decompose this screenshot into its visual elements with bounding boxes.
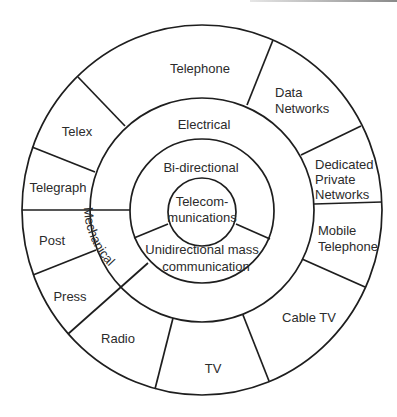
divider-dedicated-mobile	[314, 202, 382, 204]
ring2-bidirectional-label: Bi-directional	[163, 160, 238, 175]
ring2-unidirectional-line1: Unidirectional mass	[145, 242, 259, 257]
outer-telex-label: Telex	[62, 124, 93, 139]
outer-telegraph-label: Telegraph	[29, 180, 86, 195]
outer-data-line2: Networks	[275, 101, 330, 116]
outer-radio-label: Radio	[101, 331, 135, 346]
center-label-line2: munications	[167, 210, 237, 225]
divider-mechanical-electrical	[121, 263, 148, 287]
divider-telegraph-telex	[32, 147, 95, 172]
divider-data-dedicated	[301, 126, 361, 155]
outer-cable-tv-label: Cable TV	[282, 310, 336, 325]
divider-bi-uni-right	[236, 224, 270, 239]
outer-mobile-line1: Mobile	[318, 223, 356, 238]
divider-press-post	[33, 250, 96, 275]
outer-data-line1: Data	[275, 85, 303, 100]
outer-post-label: Post	[39, 233, 65, 248]
outer-tv-label: TV	[205, 361, 222, 376]
ring3-mechanical-text: Mechanical	[81, 206, 118, 268]
outer-dedicated-line3: Networks	[315, 187, 370, 202]
outer-mobile-line2: Telephone	[318, 239, 378, 254]
ring3-electrical-label: Electrical	[178, 117, 231, 132]
divider-tv-radio	[155, 318, 173, 389]
ring3-mechanical-label: Mechanical	[81, 206, 118, 268]
divider-cable-tv	[243, 315, 269, 381]
outer-telephone-label: Telephone	[170, 61, 230, 76]
outer-dedicated-line2: Private	[315, 172, 355, 187]
telecom-diagram: Telecom- munications Bi-directional Unid…	[0, 0, 397, 417]
divider-telephone-telex	[78, 77, 125, 126]
divider-telephone-data	[247, 40, 273, 105]
ring2-unidirectional-line2: communication	[162, 259, 249, 274]
center-label-line1: Telecom-	[176, 194, 229, 209]
outer-press-label: Press	[53, 289, 87, 304]
divider-mobile-cable	[302, 259, 365, 287]
divider-bi-uni-left	[134, 224, 168, 238]
outer-dedicated-line1: Dedicated	[315, 157, 374, 172]
